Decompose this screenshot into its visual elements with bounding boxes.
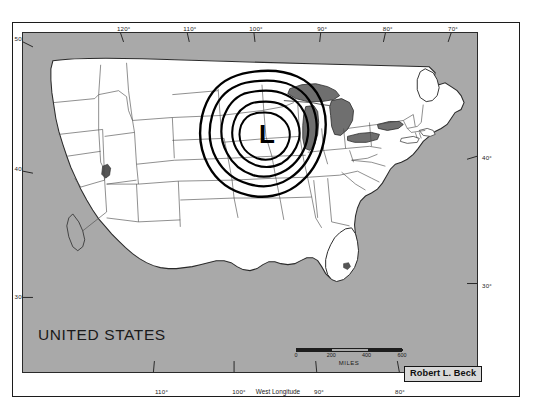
- bottom-tick-label: 80°: [395, 388, 405, 395]
- top-tick-label: 90°: [317, 25, 327, 32]
- scale-bar: 0 200 400 600 MILES: [296, 348, 402, 366]
- bottom-tick-label: 100°: [232, 388, 246, 395]
- scale-tick-label: 600: [398, 352, 407, 358]
- scale-tick-label: 200: [327, 352, 336, 358]
- scale-bar-ticks: 0 200 400 600: [296, 352, 402, 361]
- map-panel: L: [22, 32, 478, 373]
- bottom-tick-label: 90°: [314, 388, 324, 395]
- weather-map-figure: 120° 110° 100° 90° 80° 70° 110° 100° 90°…: [0, 0, 535, 418]
- author-credit-box: Robert L. Beck: [404, 366, 482, 382]
- scale-bar-segment: [368, 349, 403, 351]
- top-tick-label: 110°: [183, 25, 196, 32]
- bottom-tick-label: 110°: [155, 388, 168, 395]
- country-label: UNITED STATES: [38, 326, 166, 344]
- right-tick-label: 30°: [482, 282, 492, 289]
- top-tick-label: 70°: [448, 25, 458, 32]
- scale-bar-segment: [297, 349, 332, 351]
- x-axis-caption: West Longitude: [256, 388, 300, 395]
- us-map-drawing: [23, 33, 477, 372]
- top-tick-label: 120°: [117, 25, 131, 32]
- baja-coastal-gap: [67, 214, 85, 251]
- top-tick-label: 100°: [249, 25, 263, 32]
- low-pressure-center-symbol: L: [255, 120, 279, 148]
- maine-outline: [417, 69, 439, 102]
- top-tick-label: 80°: [383, 25, 393, 32]
- scale-tick-label: 0: [295, 352, 298, 358]
- right-tick-label: 40°: [482, 154, 492, 161]
- scale-tick-label: 400: [362, 352, 371, 358]
